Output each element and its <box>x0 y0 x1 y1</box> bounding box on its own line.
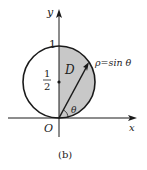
half-numerator: 1 <box>44 68 50 79</box>
polar-region-diagram: y 1 1 2 D ρ=sin θ θ O x (b) <box>0 0 147 170</box>
curve-label: ρ=sin θ <box>94 57 132 68</box>
region-label: D <box>64 63 75 77</box>
origin-label: O <box>44 122 53 135</box>
half-denominator: 2 <box>44 81 50 92</box>
figure-caption: (b) <box>58 149 72 160</box>
y-tick-one-label: 1 <box>49 38 56 51</box>
y-axis-label: y <box>46 6 54 19</box>
x-axis-label: x <box>129 122 135 133</box>
center-point <box>57 80 60 83</box>
angle-label: θ <box>71 105 77 115</box>
